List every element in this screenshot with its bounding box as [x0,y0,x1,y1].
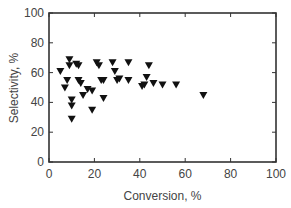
data-point-marker [63,77,71,84]
y-axis-title: Selectivity, % [7,52,21,123]
data-point-marker [111,68,119,75]
data-points [56,56,207,123]
x-tick-label: 80 [224,167,238,181]
x-axis-title: Conversion, % [123,189,201,203]
x-tick-label: 20 [88,167,102,181]
data-point-marker [79,92,87,99]
data-point-marker [199,92,207,99]
data-point-marker [68,116,76,123]
data-point-marker [68,102,76,109]
data-point-marker [159,82,167,89]
data-point-marker [88,87,96,94]
y-tick-label: 80 [31,36,45,50]
data-point-marker [149,80,157,87]
data-point-marker [68,96,76,103]
data-point-marker [88,107,96,114]
data-point-marker [124,77,132,84]
data-point-marker [65,62,73,69]
data-point-marker [145,62,153,69]
axis-ticks: 020406080100020406080100 [24,6,286,181]
y-tick-label: 0 [37,155,44,169]
x-tick-label: 40 [133,167,147,181]
y-tick-label: 100 [24,6,44,20]
scatter-chart: 020406080100020406080100 Conversion, % S… [0,0,291,208]
y-tick-label: 40 [31,95,45,109]
data-point-marker [95,62,103,69]
data-point-marker [143,74,151,81]
x-tick-label: 0 [46,167,53,181]
data-point-marker [56,68,64,75]
data-point-marker [172,82,180,89]
x-tick-label: 60 [179,167,193,181]
x-tick-label: 100 [266,167,286,181]
data-point-marker [77,80,85,87]
data-point-marker [124,59,132,66]
data-point-marker [109,59,117,66]
y-tick-label: 60 [31,66,45,80]
y-tick-label: 20 [31,125,45,139]
data-point-marker [65,56,73,63]
data-point-marker [99,95,107,102]
data-point-marker [61,85,69,92]
